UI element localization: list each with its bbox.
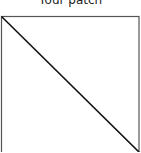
patch-canvas [0,0,141,152]
patch-diagonal-line [2,17,140,153]
